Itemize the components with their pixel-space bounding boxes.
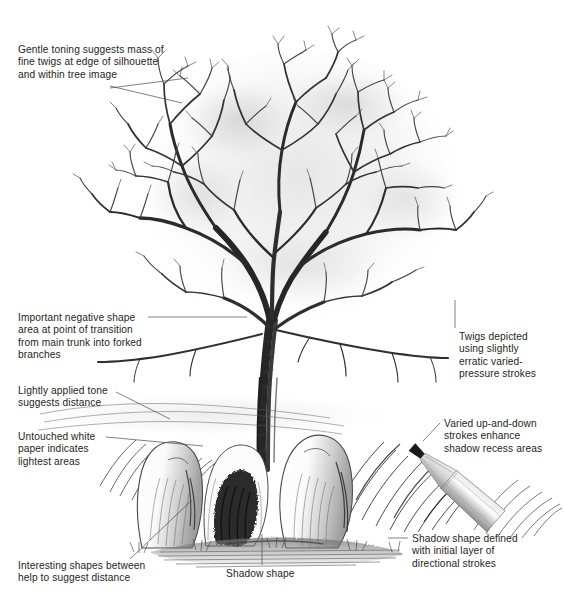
annotation-twigs-depicted: Twigs depicted using slightly erratic va… (459, 331, 563, 381)
annotation-shadow-shape: Shadow shape (226, 568, 346, 580)
annotation-lightly-applied-tone: Lightly applied tone suggests distance (18, 385, 148, 410)
standing-stones (138, 435, 353, 548)
annotation-negative-shape: Important negative shape area at point o… (18, 312, 168, 362)
annotation-untouched-white-paper: Untouched white paper indicates lightest… (18, 431, 138, 468)
annotation-varied-up-and-down-strokes: Varied up-and-down strokes enhance shado… (444, 418, 564, 455)
pencil-drawing-figure (0, 0, 564, 613)
annotation-shadow-shape-defined: Shadow shape defined with initial layer … (412, 533, 557, 570)
standing-stone-left (138, 442, 203, 548)
annotation-interesting-shapes: Interesting shapes between help to sugge… (18, 560, 218, 585)
annotation-gentle-toning: Gentle toning suggests mass of fine twig… (18, 44, 208, 81)
